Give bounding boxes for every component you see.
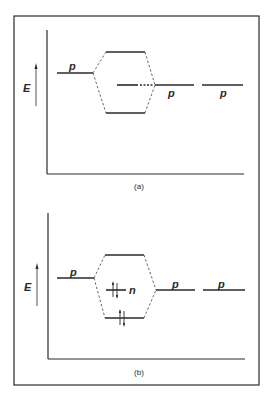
- correlation-lines: [93, 52, 155, 113]
- left-p-label: p: [69, 266, 77, 278]
- correlation-lines: [94, 255, 156, 318]
- arrowhead-icon: [35, 63, 38, 69]
- panel-caption-a: (a): [134, 182, 144, 191]
- panel-b: [36, 213, 246, 359]
- left-p-label: p: [68, 60, 76, 72]
- right-p-label-1: p: [167, 87, 175, 99]
- panel-a: [35, 30, 245, 174]
- figure-frame: [14, 16, 259, 385]
- nonbonding-n-label: n: [129, 284, 136, 296]
- right-p-label-1: p: [171, 278, 179, 290]
- right-p-label-2: p: [219, 87, 227, 99]
- mo-energy-diagram-figure: E p p p (a): [0, 0, 273, 402]
- energy-axis-label: E: [24, 281, 32, 293]
- arrowhead-icon: [36, 263, 39, 269]
- right-p-label-2: p: [217, 278, 225, 290]
- panel-caption-b: (b): [134, 368, 144, 377]
- energy-axis-label: E: [23, 82, 31, 94]
